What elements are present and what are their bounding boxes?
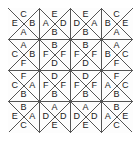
triangle-label: B [50,28,60,37]
triangle-label: D [41,112,51,121]
triangle-label: B [19,90,29,99]
triangle-label: C [10,81,20,90]
triangle-label: B [50,41,60,50]
triangle-label: D [58,112,68,121]
triangle-label: C [112,121,122,130]
triangle-label: D [81,72,91,81]
triangle-label: F [89,50,99,59]
triangle-letter-grid-figure: CEBAEADBEDABCBEAACBFBFFDBFFDABCFFCABDFFB… [0,0,139,141]
triangle-label: A [27,112,37,121]
triangle-label: D [50,72,60,81]
triangle-label: F [72,81,82,90]
triangle-label: F [19,72,29,81]
triangle-label: E [81,10,91,19]
triangle-label: F [72,50,82,59]
triangle-label: F [89,81,99,90]
triangle-label: D [81,59,91,68]
triangle-label: D [72,112,82,121]
triangle-label: C [19,121,29,130]
triangle-label: B [81,28,91,37]
triangle-label: A [19,41,29,50]
triangle-label: B [81,41,91,50]
triangle-label: D [50,59,60,68]
triangle-label: D [89,112,99,121]
triangle-label: A [81,103,91,112]
triangle-label: D [58,19,68,28]
triangle-label: B [112,103,122,112]
triangle-label: F [58,50,68,59]
triangle-label: A [41,19,51,28]
triangle-label: C [19,10,29,19]
triangle-label: A [50,103,60,112]
triangle-label: C [10,50,20,59]
triangle-label: A [89,19,99,28]
triangle-label: A [19,28,29,37]
triangle-label: E [120,19,130,28]
grid-frame: CEBAEADBEDABCBEAACBFBFFDBFFDABCFFCABDFFB… [8,8,133,133]
triangle-label: E [10,19,20,28]
triangle-label: E [50,121,60,130]
triangle-label: A [27,81,37,90]
triangle-label: E [50,10,60,19]
triangle-label: C [120,81,130,90]
triangle-label: F [19,59,29,68]
triangle-label: E [120,112,130,121]
triangle-label: A [112,41,122,50]
triangle-label: B [103,50,113,59]
triangle-label: A [103,112,113,121]
triangle-label: B [103,19,113,28]
triangle-label: C [120,50,130,59]
triangle-label: B [19,103,29,112]
triangle-label: D [72,19,82,28]
triangle-label: F [112,72,122,81]
triangle-label: A [112,28,122,37]
triangle-label: E [10,112,20,121]
triangle-label: C [112,10,122,19]
triangle-label: F [41,81,51,90]
triangle-label: F [112,59,122,68]
triangle-label: F [41,50,51,59]
triangle-label: B [81,90,91,99]
triangle-label: E [81,121,91,130]
triangle-label: A [103,81,113,90]
triangle-label: B [27,19,37,28]
triangle-label: B [27,50,37,59]
triangle-label: B [112,90,122,99]
triangle-label: B [50,90,60,99]
triangle-label: F [58,81,68,90]
